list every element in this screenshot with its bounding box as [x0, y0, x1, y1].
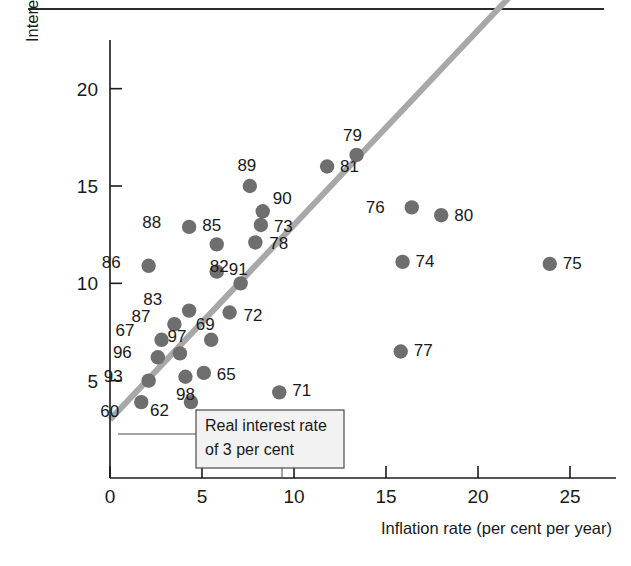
x-tick-label: 20 [467, 486, 488, 507]
data-point [141, 259, 155, 273]
data-point-label: 74 [416, 252, 435, 271]
y-tick-label: 10 [77, 273, 98, 294]
data-point [210, 237, 224, 251]
data-point [222, 305, 236, 319]
data-point-label: 85 [202, 216, 221, 235]
axes-group: 5101520 0510152025 [77, 40, 616, 507]
annotation-line-1: Real interest rate [205, 417, 327, 434]
annotation-group: Real interest rate of 3 per cent [118, 410, 344, 478]
data-point-label: 73 [274, 217, 293, 236]
data-point [134, 395, 148, 409]
data-point [233, 276, 247, 290]
data-point-label: 72 [244, 306, 263, 325]
data-point [272, 385, 286, 399]
data-point-label: 71 [292, 381, 311, 400]
data-point-label: 76 [366, 198, 385, 217]
data-point-label: 77 [414, 341, 433, 360]
data-point-label: 62 [150, 401, 169, 420]
data-point [254, 218, 268, 232]
data-point-label: 88 [142, 213, 161, 232]
data-point-label: 60 [100, 402, 119, 421]
data-point-label: 86 [102, 253, 121, 272]
x-tick-label: 15 [375, 486, 396, 507]
data-point [394, 344, 408, 358]
data-point-label: 65 [217, 365, 236, 384]
data-point [204, 333, 218, 347]
data-point [182, 220, 196, 234]
x-axis-title: Inflation rate (per cent per year) [381, 519, 612, 537]
data-point [151, 350, 165, 364]
y-tick-label: 5 [87, 371, 98, 392]
data-point [197, 366, 211, 380]
x-axis-ticks: 0510152025 [105, 466, 581, 507]
data-point-label: 80 [454, 206, 473, 225]
x-tick-label: 25 [559, 486, 580, 507]
data-point-label: 98 [176, 385, 195, 404]
data-point [182, 303, 196, 317]
data-point-label: 90 [273, 189, 292, 208]
annotation-line-2: of 3 per cent [205, 441, 295, 458]
data-point [434, 208, 448, 222]
data-point-label: 93 [104, 367, 123, 386]
data-point [243, 179, 257, 193]
data-point-label: 87 [131, 307, 150, 326]
data-point-label: 96 [113, 343, 132, 362]
x-tick-label: 0 [105, 486, 116, 507]
y-axis-title: Interest rate (per cent per year) [23, 0, 41, 42]
data-point [178, 370, 192, 384]
data-point [141, 373, 155, 387]
data-point [395, 255, 409, 269]
data-point [349, 148, 363, 162]
data-point [256, 204, 270, 218]
data-point [173, 346, 187, 360]
data-point-label: 91 [229, 260, 248, 279]
data-point [320, 159, 334, 173]
x-tick-label: 5 [197, 486, 208, 507]
data-point-label: 97 [167, 327, 186, 346]
data-points-group: 6062939667879783986569868885917282897873… [100, 126, 581, 421]
scatter-plot: 5101520 0510152025 606293966787978398656… [0, 0, 631, 566]
data-point-label: 82 [210, 257, 229, 276]
data-point [248, 235, 262, 249]
data-point-label: 78 [269, 234, 288, 253]
data-point-label: 83 [143, 290, 162, 309]
figure-container: 5101520 0510152025 606293966787978398656… [0, 0, 631, 566]
data-point [543, 257, 557, 271]
data-point-label: 69 [196, 315, 215, 334]
data-point-label: 79 [343, 126, 362, 145]
data-point [405, 200, 419, 214]
y-tick-label: 20 [77, 79, 98, 100]
y-tick-label: 15 [77, 176, 98, 197]
x-tick-label: 10 [283, 486, 304, 507]
data-point-label: 75 [563, 254, 582, 273]
data-point-label: 89 [237, 156, 256, 175]
